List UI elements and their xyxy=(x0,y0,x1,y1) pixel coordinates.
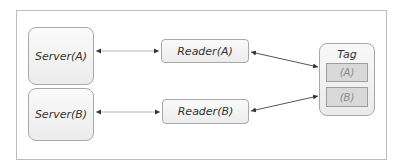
link-reader-b-tag xyxy=(251,96,318,111)
tag-node: Tag (A) (B) xyxy=(319,43,375,116)
tag-slot-a: (A) xyxy=(326,63,368,82)
server-b-node: Server(B) xyxy=(28,88,94,141)
tag-slot-b: (B) xyxy=(326,87,368,107)
reader-a-label: Reader(A) xyxy=(177,45,233,58)
tag-slot-a-label: (A) xyxy=(340,67,355,78)
reader-a-node: Reader(A) xyxy=(161,39,249,63)
server-b-label: Server(B) xyxy=(35,108,87,121)
tag-title: Tag xyxy=(320,48,374,61)
link-reader-a-tag xyxy=(251,52,318,67)
server-a-label: Server(A) xyxy=(35,50,87,63)
server-a-node: Server(A) xyxy=(28,27,94,85)
reader-b-label: Reader(B) xyxy=(178,105,234,118)
reader-b-node: Reader(B) xyxy=(162,99,249,124)
tag-slot-b-label: (B) xyxy=(340,92,355,103)
